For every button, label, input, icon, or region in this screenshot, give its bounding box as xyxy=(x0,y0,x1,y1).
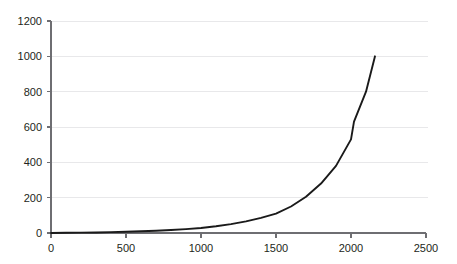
y-axis-labels: 020040060080010001200 xyxy=(18,15,42,239)
x-axis-tick-label: 0 xyxy=(48,242,54,254)
x-axis-tick-label: 2000 xyxy=(339,242,363,254)
chart-container: 020040060080010001200 050010001500200025… xyxy=(0,0,457,264)
y-axis-tick-label: 400 xyxy=(24,156,42,168)
x-axis-tick-label: 1000 xyxy=(189,242,213,254)
gridlines-group xyxy=(51,21,428,198)
y-axis-tick-label: 600 xyxy=(24,121,42,133)
y-axis-tick-label: 0 xyxy=(36,227,42,239)
x-axis-tick-label: 2500 xyxy=(414,242,438,254)
y-axis-tick-label: 1200 xyxy=(18,15,42,27)
data-series-group xyxy=(51,56,375,233)
x-axis-tick-label: 500 xyxy=(117,242,135,254)
x-axis-labels: 05001000150020002500 xyxy=(48,242,438,254)
series-line-curve xyxy=(51,56,375,233)
y-axis-tick-label: 200 xyxy=(24,192,42,204)
x-axis-tick-label: 1500 xyxy=(264,242,288,254)
line-chart: 020040060080010001200 050010001500200025… xyxy=(0,0,457,264)
y-axis-tick-label: 1000 xyxy=(18,50,42,62)
tick-marks-group xyxy=(47,21,426,238)
y-axis-tick-label: 800 xyxy=(24,86,42,98)
